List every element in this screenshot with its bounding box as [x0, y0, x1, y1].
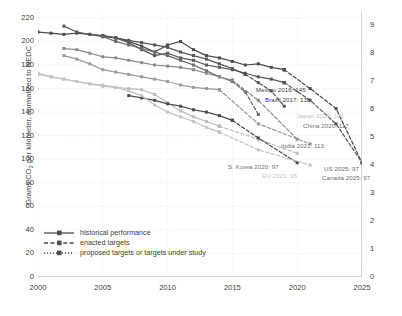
data-point-marker [205, 120, 208, 123]
data-point-marker [179, 84, 182, 87]
data-point-marker [101, 35, 104, 38]
data-point-marker [257, 62, 260, 65]
legend-key-dotted-icon [44, 248, 74, 258]
data-label-mexico: Mexico 2016: 145 [256, 86, 306, 93]
y-axis-left-tick: 100 [8, 154, 34, 163]
data-point-marker [218, 75, 221, 78]
data-point-marker [114, 86, 117, 89]
data-point-marker [166, 46, 169, 49]
y-axis-right-tick: 1 [370, 244, 396, 253]
chart-legend: historical performance enacted targets p… [44, 228, 206, 258]
data-point-marker [257, 113, 260, 116]
data-point-marker [153, 43, 156, 46]
data-point-marker [88, 62, 91, 65]
data-point-marker [101, 68, 104, 71]
data-point-marker [192, 64, 195, 67]
data-point-marker [192, 86, 195, 89]
data-point-marker [192, 48, 195, 51]
y-axis-right-tick: 0 [370, 272, 396, 281]
data-point-marker [270, 78, 273, 81]
data-point-marker [205, 54, 208, 57]
y-axis-right-tick: 4 [370, 160, 396, 169]
data-point-marker [218, 131, 221, 134]
y-axis-right-tick: 8 [370, 48, 396, 57]
data-point-marker [166, 102, 169, 105]
data-point-marker [88, 82, 91, 85]
data-point-marker [192, 108, 195, 111]
y-axis-left-tick: 40 [8, 225, 34, 234]
data-point-marker [140, 88, 143, 91]
data-point-marker [49, 32, 52, 35]
legend-key-dashed-icon [44, 238, 74, 248]
data-point-marker [179, 109, 182, 112]
data-point-marker [257, 137, 260, 140]
chart-container: Grams CO2 per kilometer, normalized to N… [0, 0, 402, 316]
data-point-marker [140, 94, 143, 97]
legend-label-proposed: proposed targets or targets under study [80, 248, 206, 258]
data-point-marker [127, 73, 130, 76]
data-point-marker [166, 111, 169, 114]
data-point-marker [166, 54, 169, 57]
data-point-marker [153, 93, 156, 96]
y-axis-left-tick: 0 [8, 272, 34, 281]
data-point-marker [192, 59, 195, 62]
data-point-marker [283, 81, 286, 84]
data-point-marker [114, 40, 117, 43]
data-point-marker [205, 87, 208, 90]
legend-key-solid-icon [44, 228, 74, 238]
data-point-marker [114, 56, 117, 59]
data-point-marker [49, 75, 52, 78]
data-point-marker [75, 31, 78, 34]
y-axis-left-tick: 60 [8, 201, 34, 210]
x-axis-tick: 2010 [148, 283, 188, 292]
data-point-marker [153, 64, 156, 67]
data-point-marker [218, 56, 221, 59]
data-point-marker [101, 55, 104, 58]
data-point-marker [153, 99, 156, 102]
data-point-marker [62, 54, 65, 57]
data-point-marker [127, 94, 130, 97]
data-point-marker [205, 126, 208, 129]
data-label-us: US 2025: 97 [324, 165, 359, 172]
series-line-historical [38, 32, 284, 70]
data-point-marker [257, 148, 260, 151]
data-point-marker [283, 105, 286, 108]
x-axis-tick: 2015 [212, 283, 252, 292]
data-point-marker [205, 111, 208, 114]
data-point-marker [114, 71, 117, 74]
data-point-marker [231, 60, 234, 63]
data-point-marker [244, 64, 247, 67]
y-axis-left-tick: 80 [8, 178, 34, 187]
y-axis-left-tick: 180 [8, 60, 34, 69]
data-point-marker [179, 105, 182, 108]
data-point-marker [38, 31, 40, 34]
data-point-marker [127, 59, 130, 62]
data-point-marker [127, 39, 130, 42]
y-axis-left-tick: 120 [8, 131, 34, 140]
y-axis-right-tick: 2 [370, 216, 396, 225]
data-label-eu: EU 2021: 95 [262, 172, 297, 179]
data-point-marker [296, 152, 299, 155]
data-point-marker [231, 119, 234, 122]
y-axis-right-tick: 9 [370, 20, 396, 29]
data-point-marker [283, 68, 286, 71]
data-point-marker [244, 73, 247, 76]
x-axis-tick: 2025 [342, 283, 382, 292]
y-axis-right-tick: 3 [370, 188, 396, 197]
data-point-marker [309, 87, 312, 90]
data-point-marker [127, 43, 130, 46]
data-point-marker [309, 164, 312, 167]
x-axis-tick: 2005 [83, 283, 123, 292]
x-axis-tick: 2020 [277, 283, 317, 292]
data-point-marker [205, 58, 208, 61]
data-point-marker [257, 99, 260, 102]
data-point-marker [270, 66, 273, 69]
data-label-brazil: Brazil 2017: 138 [265, 96, 311, 103]
data-point-marker [62, 25, 65, 28]
data-point-marker [140, 61, 143, 64]
data-point-marker [140, 75, 143, 78]
data-label-china: China 2020: 117 [303, 122, 349, 129]
data-point-marker [127, 89, 130, 92]
data-point-marker [257, 75, 260, 78]
data-point-marker [179, 59, 182, 62]
